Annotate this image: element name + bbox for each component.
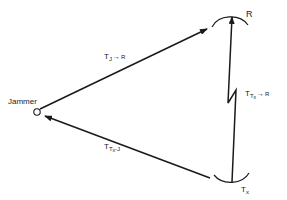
edge-label-target: R	[121, 54, 125, 60]
jammer-to-receiver-label: TJ→R	[104, 53, 125, 61]
edge-label-suffix: -J	[115, 146, 120, 152]
arrow-right-icon: →	[113, 53, 120, 60]
arrow-right-icon: →	[257, 90, 264, 97]
transmitter-to-receiver-label: TTx→R	[245, 90, 269, 98]
edge-label-sub: J	[109, 56, 112, 62]
edge-label-sub: T	[109, 146, 113, 152]
transmitter-label-sub: x	[246, 189, 249, 195]
transmitter-to-jammer-label: TTx-J	[104, 143, 120, 151]
edge-label-sub2: x	[254, 94, 257, 100]
jammer-to-receiver-path	[40, 29, 207, 109]
transmitter-label: Tx	[241, 186, 249, 194]
transmitter-to-jammer-path	[45, 116, 210, 178]
jammer-label: Jammer	[8, 98, 37, 106]
jammer-node-icon	[34, 109, 40, 115]
receiver-dish-icon	[212, 17, 248, 27]
diagram-canvas	[0, 0, 287, 200]
edge-label-target: R	[265, 91, 269, 97]
edge-label-sub: T	[250, 93, 254, 99]
transmitter-to-receiver-path	[228, 17, 236, 182]
receiver-label: R	[246, 10, 253, 19]
